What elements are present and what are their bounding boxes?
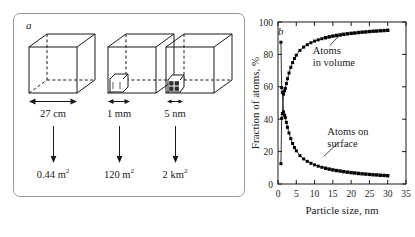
data-point: [279, 41, 282, 44]
data-point: [298, 154, 301, 157]
x-tick-label: 0: [276, 189, 281, 199]
down-arrow-2: [115, 126, 124, 164]
data-point: [364, 172, 367, 175]
y-tick-label: 100: [259, 18, 274, 28]
data-point: [280, 117, 283, 120]
data-point: [298, 49, 301, 52]
area-label-3: 2 km2: [145, 167, 205, 180]
data-point: [360, 31, 363, 34]
data-point: [357, 172, 360, 175]
area-exp-3: 2: [184, 167, 188, 175]
x-tick-label: 35: [401, 189, 411, 199]
data-point: [349, 171, 352, 174]
data-point: [386, 29, 389, 32]
data-point: [295, 149, 298, 152]
data-point: [357, 31, 360, 34]
data-point: [379, 174, 382, 177]
figure-root: a 27 cm 0.44 m2: [0, 0, 415, 237]
data-point: [293, 57, 296, 60]
data-point: [309, 162, 312, 165]
down-arrow-1: [49, 126, 58, 164]
data-point: [371, 30, 374, 33]
data-point: [313, 40, 316, 43]
x-tick-label: 20: [346, 189, 356, 199]
data-point: [306, 43, 309, 46]
data-point: [335, 169, 338, 172]
width-arrow-1mm: [107, 97, 131, 106]
data-point: [342, 170, 345, 173]
area-value-2: 120 m: [104, 169, 131, 180]
data-point: [282, 110, 285, 113]
data-point: [285, 121, 288, 124]
data-point: [328, 167, 331, 170]
data-point: [313, 163, 316, 166]
data-point: [320, 37, 323, 40]
data-point: [338, 169, 341, 172]
data-point: [284, 116, 287, 119]
x-tick-label: 10: [310, 189, 320, 199]
size-label-1: 27 cm: [18, 108, 88, 119]
y-tick-label: 20: [264, 147, 274, 157]
y-tick-label: 60: [264, 82, 274, 92]
area-value-1: 0.44 m: [37, 169, 66, 180]
data-point: [353, 171, 356, 174]
data-point: [287, 72, 290, 75]
data-point: [375, 173, 378, 176]
data-point: [342, 33, 345, 36]
area-exp-1: 2: [66, 167, 70, 175]
annotation-atoms-in-volume-line2: in volume: [313, 57, 356, 68]
x-tick-label: 25: [365, 189, 375, 199]
cube-large-27cm: [28, 33, 104, 95]
cube-large-5nm: [165, 33, 237, 95]
size-label-3: 5 nm: [145, 108, 205, 119]
y-axis-title: Fraction of atoms, %: [249, 57, 261, 149]
x-tick-label: 30: [383, 189, 393, 199]
data-point: [360, 172, 363, 175]
data-point: [317, 38, 320, 41]
data-point: [331, 34, 334, 37]
data-point: [364, 30, 367, 33]
data-point: [368, 30, 371, 33]
data-point: [331, 168, 334, 171]
data-point: [306, 160, 309, 163]
data-point: [382, 29, 385, 32]
y-tick-label: 0: [268, 180, 273, 190]
data-point: [293, 146, 296, 149]
data-point: [280, 86, 283, 89]
area-value-3: 2 km: [163, 169, 184, 180]
y-tick-label: 40: [264, 115, 274, 125]
data-point: [286, 77, 289, 80]
x-tick-label: 15: [328, 189, 338, 199]
data-point: [302, 157, 305, 160]
data-point: [320, 166, 323, 169]
data-point: [286, 126, 289, 129]
data-point: [289, 66, 292, 69]
data-point: [346, 170, 349, 173]
data-point: [379, 29, 382, 32]
x-tick-label: 5: [294, 189, 299, 199]
panel-a-label: a: [26, 19, 32, 31]
plot-frame: [278, 22, 406, 184]
annotation-atoms-on-surface-line2: surface: [327, 138, 358, 149]
data-point: [368, 173, 371, 176]
data-point: [302, 46, 305, 49]
data-point: [285, 82, 288, 85]
data-point: [346, 32, 349, 35]
data-point: [287, 131, 290, 134]
data-point: [349, 32, 352, 35]
data-point: [279, 162, 282, 165]
data-point: [353, 31, 356, 34]
data-point: [328, 35, 331, 38]
panel-b-label: b: [278, 25, 284, 37]
data-point: [382, 174, 385, 177]
width-arrow-5nm: [166, 97, 184, 106]
data-point: [375, 29, 378, 32]
data-point: [371, 173, 374, 176]
down-arrow-3: [171, 126, 180, 164]
panel-b: 05101520253035020406080100Atomsin volume…: [248, 8, 411, 234]
data-point: [324, 36, 327, 39]
data-point: [281, 91, 284, 94]
data-point: [386, 174, 389, 177]
area-label-1: 0.44 m2: [13, 167, 93, 180]
annotation-atoms-in-volume-line1: Atoms: [313, 45, 341, 56]
